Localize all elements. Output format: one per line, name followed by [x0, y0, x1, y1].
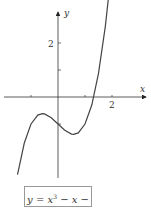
x-tick-label-2: 2	[109, 100, 115, 110]
chart-canvas: 2 2 x y	[0, 0, 151, 216]
curve-cubic	[18, 0, 110, 175]
y-axis-label: y	[63, 8, 70, 18]
x-axis-label: x	[140, 84, 145, 94]
equation-caption: y = x3 − x − 1	[24, 186, 92, 207]
y-tick-label-2: 2	[48, 39, 54, 49]
y-ticks	[58, 43, 61, 124]
